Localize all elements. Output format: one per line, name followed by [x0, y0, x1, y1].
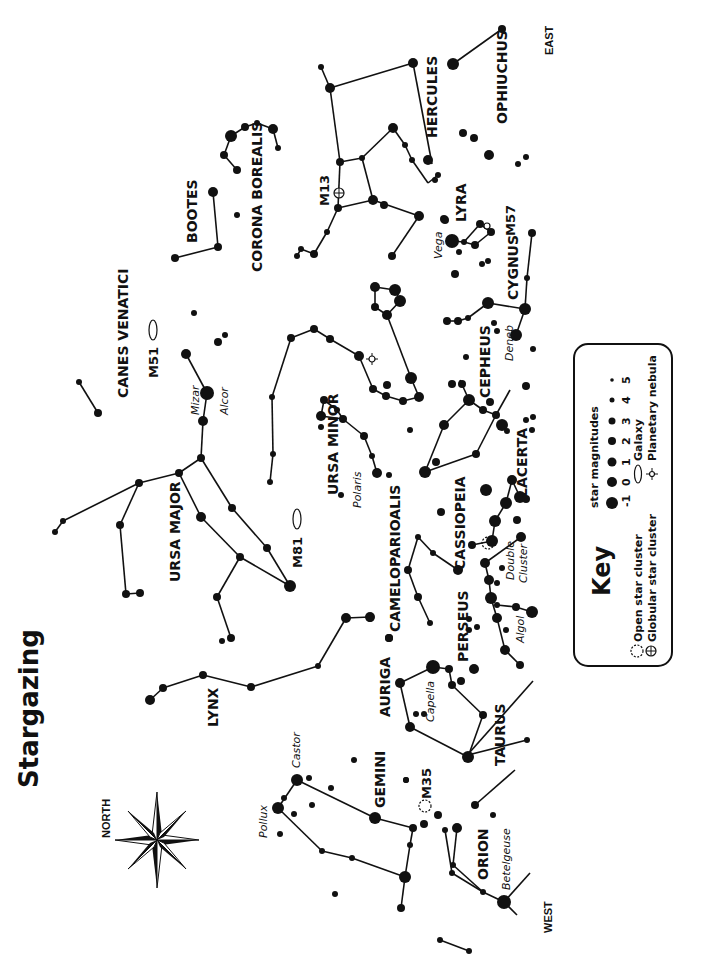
label-m13: M13 — [317, 175, 332, 206]
constellation-canes-venatici — [76, 379, 102, 417]
label-lacerta: LACERTA — [514, 428, 530, 497]
label-lyra: LYRA — [453, 183, 469, 222]
planetary-nebula-icon — [366, 353, 378, 365]
key-planetary-nebula: Planetary nebula — [646, 355, 659, 461]
star-vega: Vega — [432, 231, 445, 259]
magnitude-dot-neg1 — [606, 497, 618, 509]
galaxy-m51-icon — [149, 320, 157, 340]
key-galaxy: Galaxy — [632, 419, 645, 461]
open-cluster-m35-icon — [419, 800, 431, 812]
star-capella: Capella — [424, 681, 437, 722]
star-alcor: Alcor — [218, 386, 231, 416]
constellation-cepheus — [419, 354, 510, 478]
label-gemini: GEMINI — [372, 751, 388, 808]
star-map: Stargazing NORTH WEST EAST — [0, 0, 712, 979]
constellation-ophiuchus — [447, 25, 529, 167]
constellation-taurus — [403, 681, 533, 783]
key-globular-cluster: Globular star cluster — [646, 514, 659, 642]
star-double-cluster: Double — [504, 541, 517, 580]
magnitude-label-4: 4 — [620, 396, 633, 404]
label-ursa-minor: URSA MINOR — [325, 393, 341, 495]
compass-rose-icon — [115, 792, 199, 888]
direction-west: WEST — [542, 901, 554, 933]
magnitude-label-5: 5 — [620, 376, 633, 384]
magnitude-label-neg1: -1 — [620, 495, 633, 507]
constellation-gemini — [272, 757, 443, 943]
label-bootes: BOOTES — [184, 179, 200, 243]
galaxy-key-icon — [635, 465, 642, 483]
legend-key: Key star magnitudes -1 0 1 2 3 4 5 Open … — [574, 344, 672, 666]
direction-east: EAST — [543, 25, 555, 55]
label-m35: M35 — [419, 768, 434, 799]
star-pollux: Pollux — [257, 805, 270, 838]
label-ophiuchus: OPHIUCHUS — [494, 30, 510, 124]
star-double-cluster-2: Cluster — [517, 542, 530, 583]
star-castor: Castor — [290, 731, 303, 768]
label-lynx: LYNX — [205, 687, 221, 727]
label-orion: ORION — [475, 828, 491, 880]
label-cygnus: CYGNUS — [505, 235, 521, 300]
star-algol: Algol — [514, 616, 527, 644]
magnitude-dot-2 — [608, 437, 616, 445]
label-cepheus: CEPHEUS — [477, 325, 493, 398]
label-perseus: PERSEUS — [455, 590, 471, 662]
label-m57: M57 — [503, 205, 518, 236]
label-m81: M81 — [290, 537, 305, 568]
label-corona-borealis: CORONA BOREALIS — [249, 122, 265, 272]
galaxy-m81-icon — [293, 509, 301, 529]
label-taurus: TAURUS — [492, 704, 508, 766]
magnitude-dot-4 — [610, 398, 615, 403]
magnitude-label-0: 0 — [620, 478, 633, 486]
magnitude-dot-3 — [609, 418, 616, 425]
star-polaris: Polaris — [351, 471, 364, 508]
constellation-lynx — [145, 612, 375, 705]
constellation-lacerta — [522, 382, 536, 433]
constellation-ursa-major — [52, 310, 296, 644]
star-mizar: Mizar — [189, 384, 202, 415]
magnitude-dot-1 — [608, 458, 617, 467]
direction-north: NORTH — [100, 799, 112, 838]
key-open-cluster: Open star cluster — [632, 534, 645, 642]
magnitude-dot-0 — [607, 477, 617, 487]
label-auriga: AURIGA — [377, 657, 393, 717]
label-m51: M51 — [146, 347, 161, 378]
constellation-draco — [267, 282, 424, 485]
label-cassiopeia: CASSIOPEIA — [452, 476, 468, 570]
label-hercules: HERCULES — [424, 56, 440, 138]
key-title: Key — [588, 546, 616, 596]
key-magnitudes-title: star magnitudes — [588, 406, 601, 508]
page-title: Stargazing — [14, 629, 44, 788]
label-camelopardalis: CAMELOPARIOALIS — [387, 485, 403, 632]
label-ursa-major: URSA MAJOR — [167, 481, 183, 582]
magnitude-dot-5 — [610, 378, 614, 382]
star-betelgeuse: Betelgeuse — [500, 828, 513, 890]
planetary-nebula-m57-icon — [484, 223, 490, 229]
globular-cluster-key-icon — [646, 646, 656, 656]
label-canes-venatici: CANES VENATICI — [115, 269, 131, 398]
